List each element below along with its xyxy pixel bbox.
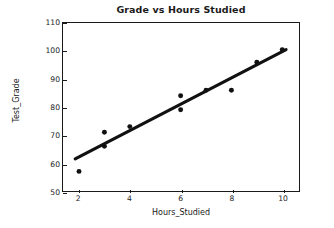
data-point: [178, 93, 183, 98]
y-tick-label: 100: [34, 46, 60, 55]
x-tick-label: 2: [65, 194, 91, 203]
y-tick-label: 60: [34, 159, 60, 168]
y-axis-label: Test_Grade: [12, 51, 21, 151]
y-tick-label: 80: [34, 103, 60, 112]
x-tick-label: 6: [168, 194, 194, 203]
x-axis-label: Hours_Studied: [62, 208, 300, 217]
data-point: [77, 169, 82, 174]
x-axis-tick-labels: 246810: [62, 194, 300, 208]
x-tick-label: 8: [219, 194, 245, 203]
chart-figure: Grade vs Hours Studied Test_Grade Hours_…: [0, 0, 334, 228]
y-tick-label: 50: [34, 188, 60, 197]
data-layer: [63, 23, 299, 191]
regression-line: [75, 50, 286, 159]
data-point: [102, 130, 107, 135]
y-tick-label: 110: [34, 18, 60, 27]
plot-area: [62, 22, 300, 192]
y-axis-tick-labels: 5060708090100110: [30, 22, 60, 192]
x-tick-label: 4: [116, 194, 142, 203]
x-tick-label: 10: [270, 194, 296, 203]
data-point: [229, 88, 234, 93]
y-tick-mark: [63, 193, 67, 194]
chart-title: Grade vs Hours Studied: [62, 4, 300, 15]
y-tick-label: 90: [34, 74, 60, 83]
data-point: [178, 107, 183, 112]
y-tick-label: 70: [34, 131, 60, 140]
